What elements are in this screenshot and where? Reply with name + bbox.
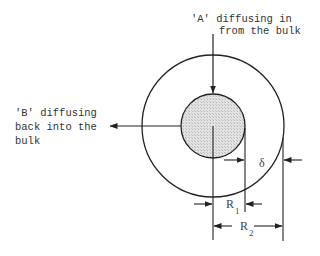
r2-subscript: 2 (249, 228, 254, 238)
b-label-line2: back into the (15, 121, 97, 133)
r1-subscript: 1 (235, 206, 240, 216)
diffusion-diagram: δ R 1 R 2 'A' diffusing in from the bulk… (0, 0, 320, 256)
b-label-line1: 'B' diffusing (15, 107, 97, 119)
a-label-line2: from the bulk (219, 25, 301, 37)
a-label-line1: 'A' diffusing in (191, 13, 292, 25)
b-label-line3: bulk (15, 135, 40, 147)
delta-label: δ (259, 156, 265, 170)
r1-label: R (226, 197, 234, 211)
r2-label: R (240, 219, 248, 233)
